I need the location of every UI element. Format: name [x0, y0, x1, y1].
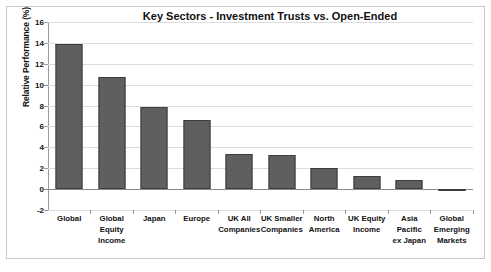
bar-slot	[346, 22, 389, 210]
y-tick-label: 12	[35, 59, 44, 68]
x-tick-label-line: Equity	[91, 224, 134, 235]
x-tick-label-line: UK Equity	[346, 213, 389, 224]
x-tick-label-line: Companies	[218, 224, 261, 235]
bar[interactable]	[311, 168, 338, 189]
bar[interactable]	[353, 176, 380, 190]
bar[interactable]	[141, 107, 168, 190]
y-tick-mark	[44, 210, 48, 211]
y-tick-label: 10	[35, 80, 44, 89]
y-axis-tick-labels: 1614121086420-2	[22, 22, 44, 210]
bar-slot	[303, 22, 346, 210]
bar-slot	[388, 22, 431, 210]
x-tick-label-line: Markets	[431, 235, 474, 246]
x-tick-label-line: UK Smaller	[261, 213, 304, 224]
x-tick-label-line: Asia Pacific	[388, 213, 431, 235]
x-tick-label-line: Global	[48, 213, 91, 224]
x-tick-label-line: Companies	[261, 224, 304, 235]
y-tick-label: 16	[35, 18, 44, 27]
x-tick-label: NorthAmerica	[303, 213, 346, 235]
bar[interactable]	[98, 77, 125, 189]
bar-slot	[431, 22, 474, 210]
bar-slot	[176, 22, 219, 210]
bar[interactable]	[56, 44, 83, 189]
x-tick-label: Europe	[176, 213, 219, 224]
bar-slot	[261, 22, 304, 210]
bar[interactable]	[268, 155, 295, 189]
x-tick-label-line: Income	[346, 224, 389, 235]
x-tick-label-line: Emerging	[431, 224, 474, 235]
x-tick-label-line: UK All	[218, 213, 261, 224]
x-tick-label-line: America	[303, 224, 346, 235]
x-tick-label-line: ex Japan	[388, 235, 431, 246]
bar[interactable]	[183, 120, 210, 189]
bar-slot	[133, 22, 176, 210]
chart-container: Key Sectors - Investment Trusts vs. Open…	[0, 0, 491, 272]
x-tick-label-line: North	[303, 213, 346, 224]
x-tick-label: Asia Pacificex Japan	[388, 213, 431, 246]
x-tick-label-line: Global	[431, 213, 474, 224]
x-tick-label: UK AllCompanies	[218, 213, 261, 235]
x-tick-label-line: Japan	[133, 213, 176, 224]
x-tick-label-line: Global	[91, 213, 134, 224]
bar[interactable]	[396, 180, 423, 189]
bar-slot	[218, 22, 261, 210]
x-tick-label: GlobalEquityIncome	[91, 213, 134, 246]
x-axis-tick-labels: GlobalGlobalEquityIncomeJapanEuropeUK Al…	[48, 213, 473, 257]
bar[interactable]	[226, 154, 253, 190]
x-tick-label: Global	[48, 213, 91, 224]
x-tick-label: UK EquityIncome	[346, 213, 389, 235]
y-tick-label: -2	[37, 206, 44, 215]
bar[interactable]	[438, 189, 465, 191]
bar-series	[48, 22, 473, 210]
x-tick-label: Japan	[133, 213, 176, 224]
x-tick-label-line: Income	[91, 235, 134, 246]
x-tick-label: GlobalEmergingMarkets	[431, 213, 474, 246]
x-tick-label-line: Europe	[176, 213, 219, 224]
bar-slot	[48, 22, 91, 210]
x-tick-label: UK SmallerCompanies	[261, 213, 304, 235]
plot-area	[48, 22, 473, 210]
bar-slot	[91, 22, 134, 210]
y-tick-label: 14	[35, 38, 44, 47]
